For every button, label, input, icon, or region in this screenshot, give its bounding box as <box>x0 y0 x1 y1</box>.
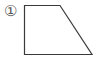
trapezoid-figure <box>0 0 98 59</box>
trapezoid-shape <box>25 6 93 55</box>
